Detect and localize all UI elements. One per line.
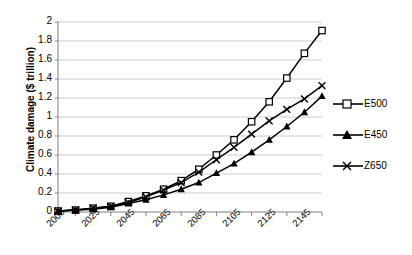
marker-open-square bbox=[231, 137, 237, 143]
marker-filled-triangle bbox=[248, 148, 255, 155]
legend-marker-open-square-icon bbox=[333, 97, 363, 111]
series-line bbox=[58, 31, 322, 212]
legend-item-z650: Z650 bbox=[333, 150, 387, 181]
chart-container: Climate damage ($ trillion) 00.20.40.60.… bbox=[0, 0, 412, 255]
marker-open-square bbox=[248, 119, 254, 125]
legend-label-e500: E500 bbox=[364, 98, 387, 109]
series-line bbox=[58, 96, 322, 211]
marker-open-square bbox=[301, 50, 307, 56]
legend-item-e500: E500 bbox=[333, 88, 387, 119]
marker-filled-triangle bbox=[213, 169, 220, 176]
series-z650 bbox=[55, 82, 326, 214]
legend-label-z650: Z650 bbox=[364, 160, 387, 171]
marker-filled-triangle bbox=[318, 92, 325, 99]
series-line bbox=[58, 86, 322, 211]
marker-open-square bbox=[284, 75, 290, 81]
marker-open-square bbox=[319, 27, 325, 33]
legend-marker-cross-x-icon bbox=[333, 159, 363, 173]
marker-filled-triangle bbox=[195, 179, 202, 186]
legend-item-e450: E450 bbox=[333, 119, 387, 150]
legend-label-e450: E450 bbox=[364, 129, 387, 140]
marker-filled-triangle bbox=[230, 160, 237, 167]
legend-marker-filled-triangle-icon bbox=[333, 128, 363, 142]
marker-open-square bbox=[266, 99, 272, 105]
chart-legend: E500 E450 Z650 bbox=[333, 88, 387, 181]
